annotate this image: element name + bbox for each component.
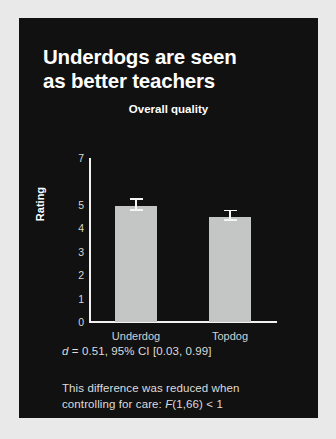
- y-axis-tick-5: 5: [58, 199, 84, 211]
- x-axis-tick-topdog: Topdog: [212, 330, 248, 342]
- analysis-note: This difference was reduced when control…: [62, 381, 312, 412]
- effect-size-value: = 0.51, 95% CI [0.03, 0.99]: [69, 345, 212, 357]
- y-axis-tick-4: 4: [58, 222, 84, 234]
- bar-chart: Overall quality Rating 76543210 Underdog…: [19, 96, 318, 338]
- f-statistic-value: (1,66) < 1: [172, 398, 223, 410]
- slide-card: Underdogs are seen as better teachers Ov…: [19, 18, 318, 418]
- analysis-note-line-1: This difference was reduced when: [62, 381, 312, 397]
- plot-area: 76543210 UnderdogTopdog: [89, 158, 277, 400]
- error-bar-cap-underdog: [130, 198, 143, 200]
- y-axis-label: Rating: [34, 174, 46, 234]
- y-axis-tick-3: 3: [58, 246, 84, 258]
- analysis-note-line-2: controlling for care: F(1,66) < 1: [62, 397, 312, 413]
- error-bar-lowcap-topdog: [224, 219, 237, 221]
- chart-title: Overall quality: [19, 103, 318, 115]
- effect-size-caption: d = 0.51, 95% CI [0.03, 0.99]: [62, 345, 212, 357]
- y-axis-tick-2: 2: [58, 269, 84, 281]
- analysis-note-line-2-pre: controlling for care:: [62, 398, 165, 410]
- y-axis-tick-1: 1: [58, 293, 84, 305]
- error-bar-lowcap-underdog: [130, 209, 143, 211]
- bar-topdog: [209, 217, 251, 322]
- page-title-line-1: Underdogs are seen: [43, 45, 293, 69]
- y-axis-line: [89, 158, 91, 322]
- bar-underdog: [115, 206, 157, 322]
- y-axis-tick-0: 0: [58, 316, 84, 328]
- y-axis-tick-7: 7: [58, 152, 84, 164]
- error-bar-cap-topdog: [224, 210, 237, 212]
- page-title-line-2: as better teachers: [43, 69, 293, 93]
- page-title: Underdogs are seen as better teachers: [43, 45, 293, 93]
- x-axis-tick-underdog: Underdog: [112, 330, 160, 342]
